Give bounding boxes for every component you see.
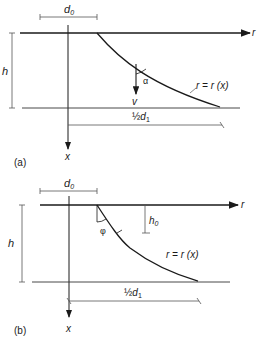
half-d1-dimension-b: ½d1 (67, 287, 201, 304)
v-label-a: v (132, 96, 138, 107)
h-dimension-a: h (2, 33, 15, 108)
curve-label-b: r = r (x) (166, 249, 199, 260)
svg-text:½d1: ½d1 (132, 111, 150, 123)
alpha-label-a: α (143, 76, 148, 86)
svg-text:d0: d0 (64, 177, 74, 190)
curve-label-a: r = r (x) (196, 80, 229, 91)
h0-dimension-b: h0 (142, 205, 159, 233)
svg-text:½d1: ½d1 (124, 287, 142, 299)
caption-b: (b) (14, 325, 26, 336)
figure-b: d0 r x h h0 φ r = r (x) (8, 177, 245, 336)
r-axis-label-b: r (241, 199, 245, 210)
profile-curve-b (97, 205, 198, 281)
r-axis-label-a: r (252, 27, 256, 38)
x-axis-label-a: x (64, 151, 71, 162)
svg-text:h: h (2, 65, 8, 77)
phi-label-b: φ (100, 226, 106, 236)
h-dimension-b: h (8, 205, 25, 282)
d0-dimension-a: d0 (40, 3, 97, 20)
svg-text:h0: h0 (149, 215, 159, 227)
d0-dimension-b: d0 (40, 177, 97, 194)
nozzle-profile-diagram: d0 r x h α v r = r (x) ½d1 (0, 0, 262, 339)
svg-text:d0: d0 (64, 3, 74, 16)
svg-text:h: h (8, 237, 14, 249)
profile-curve-a (97, 33, 220, 107)
phi-arc-b (97, 219, 106, 222)
x-axis-label-b: x (65, 323, 72, 334)
caption-a: (a) (14, 157, 26, 168)
figure-a: d0 r x h α v r = r (x) ½d1 (2, 3, 256, 168)
half-d1-dimension-a: ½d1 (68, 111, 224, 128)
